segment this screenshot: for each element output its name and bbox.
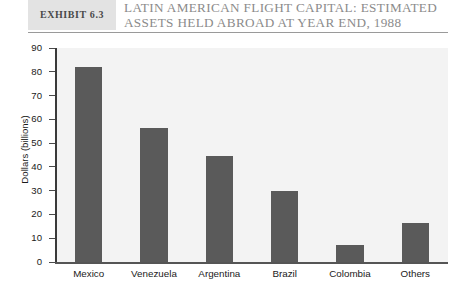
y-axis-tick: [49, 262, 55, 263]
y-axis-tick: [49, 71, 55, 72]
bar: [140, 128, 167, 262]
y-axis-tick-label: 10: [2, 232, 42, 243]
bar: [336, 245, 363, 262]
x-axis-tick-label: Colombia: [317, 268, 382, 279]
exhibit-header: Exhibit 6.3 Latin American Flight Capita…: [0, 0, 462, 33]
bar: [271, 191, 298, 262]
x-axis-tick-label: Mexico: [56, 268, 121, 279]
page-title-line-1: Latin American Flight Capital: Estimated: [124, 1, 454, 16]
y-axis-tick-label: 30: [2, 185, 42, 196]
exhibit-badge: Exhibit 6.3: [28, 0, 116, 30]
y-axis-tick-label: 70: [2, 90, 42, 101]
page-title-line-2: Assets Held Abroad at Year End, 1988: [124, 16, 454, 31]
x-axis-tick-label: Argentina: [187, 268, 252, 279]
y-axis-tick: [49, 190, 55, 191]
bar: [206, 156, 233, 262]
y-axis-tick-label: 50: [2, 137, 42, 148]
y-axis-tick-label: 60: [2, 113, 42, 124]
bar: [402, 223, 429, 262]
bar-chart: Dollars (billions) 0102030405060708090 M…: [0, 40, 462, 272]
y-axis-tick: [49, 238, 55, 239]
x-axis-tick-label: Brazil: [252, 268, 317, 279]
y-axis-tick-label: 80: [2, 66, 42, 77]
y-axis-tick: [49, 119, 55, 120]
y-axis-tick-label: 40: [2, 161, 42, 172]
bar: [75, 67, 102, 262]
x-axis-tick-label: Others: [383, 268, 448, 279]
y-axis-tick: [49, 214, 55, 215]
x-axis-baseline: [55, 262, 448, 264]
page-title: Latin American Flight Capital: Estimated…: [124, 1, 454, 30]
bars-layer: [56, 48, 448, 262]
y-axis-tick: [49, 95, 55, 96]
x-axis-tick-label: Venezuela: [121, 268, 186, 279]
header-divider: [28, 32, 448, 34]
y-axis-tick-label: 20: [2, 208, 42, 219]
exhibit-number-label: Exhibit 6.3: [28, 0, 116, 30]
y-axis-tick: [49, 48, 55, 49]
y-axis-tick: [49, 143, 55, 144]
y-axis-tick-label: 0: [2, 256, 42, 267]
y-axis-tick-label: 90: [2, 42, 42, 53]
y-axis-tick: [49, 166, 55, 167]
